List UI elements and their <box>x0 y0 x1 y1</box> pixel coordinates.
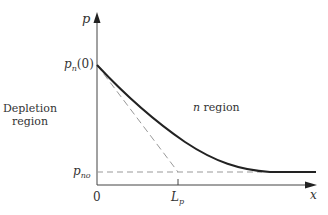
depletion-region-label-line1: Depletion <box>3 102 57 115</box>
pno-label: pno <box>73 164 91 180</box>
carrier-decay-curve <box>97 65 316 172</box>
tangent-dashed-line <box>97 65 178 172</box>
y-axis-label: p <box>82 11 91 26</box>
x-axis-label: x <box>310 188 317 202</box>
depletion-region-label-line2: region <box>12 115 48 128</box>
origin-label: 0 <box>93 190 101 204</box>
pn0-label: pn(0) <box>64 57 94 73</box>
y-axis-arrow-icon <box>94 12 101 23</box>
minority-carrier-diagram: p x 0 pn(0) pno Lp Depletion region n re… <box>0 0 328 215</box>
lp-label: Lp <box>170 190 184 206</box>
n-region-label: n region <box>193 101 240 114</box>
